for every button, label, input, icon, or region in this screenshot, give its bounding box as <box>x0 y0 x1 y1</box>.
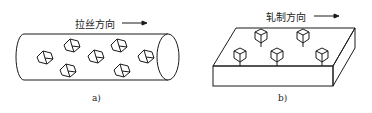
caption-a: a) <box>92 93 101 103</box>
direction-arrow-a <box>122 21 147 25</box>
caption-b: b) <box>278 93 287 103</box>
direction-label-a: 拉丝方向 <box>75 16 115 31</box>
direction-label-b: 轧制方向 <box>266 9 306 24</box>
direction-arrow-b <box>314 14 339 18</box>
diagram-canvas <box>0 0 372 113</box>
crystals-a <box>37 39 154 77</box>
crystals-b <box>234 29 328 66</box>
